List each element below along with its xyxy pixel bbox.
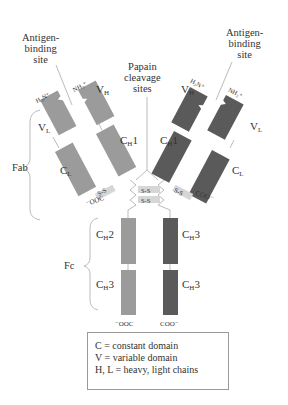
fc-left-ch3-domain: [121, 270, 136, 315]
fc-left-ch2-label: CH2: [96, 229, 114, 244]
papain-cleavage-sites-label: Papain cleavage sites: [124, 61, 161, 94]
legend-line-chains: H, L = heavy, light chains: [95, 364, 228, 376]
right-vh-label: VH: [181, 84, 194, 99]
antigen-binding-site-left-label: Antigen- binding site: [22, 32, 59, 65]
fc-right-c-terminus: COO⁻: [160, 319, 178, 330]
left-vl-label: VL: [38, 122, 50, 137]
right-vl-domain: [207, 95, 243, 140]
antibody-diagram: Antigen- binding site Antigen- binding s…: [0, 0, 288, 405]
legend-line-variable: V = variable domain: [95, 352, 228, 364]
fc-right-ch3-top-label: CH3: [182, 229, 200, 244]
fc-label: Fc: [64, 260, 75, 271]
right-vl-label: VL: [250, 121, 262, 136]
antigen-binding-site-right-label: Antigen- binding site: [226, 27, 263, 60]
hinge-ss-label-2: S-S: [141, 195, 150, 206]
right-ch1-label: CH1: [160, 135, 178, 150]
right-cl-label: CL: [232, 165, 244, 180]
left-cl-label: CL: [60, 165, 72, 180]
fc-left-ch2-domain: [121, 218, 136, 264]
fab-label: Fab: [12, 162, 28, 173]
left-ch1-domain: [96, 125, 136, 177]
fc-right-ch3-bottom-label: CH3: [182, 279, 200, 294]
legend-line-constant: C = constant domain: [95, 340, 228, 352]
left-ch1-label: CH1: [120, 135, 138, 150]
fc-right-ch3-top-domain: [163, 218, 178, 264]
fc-left-c-terminus: ⁻OOC: [115, 319, 133, 330]
legend-box: C = constant domain V = variable domain …: [87, 332, 229, 390]
fc-right-ch3-bottom-domain: [163, 270, 178, 315]
fc-left-ch3-label: CH3: [96, 279, 114, 294]
left-vh-label: VH: [96, 84, 109, 99]
